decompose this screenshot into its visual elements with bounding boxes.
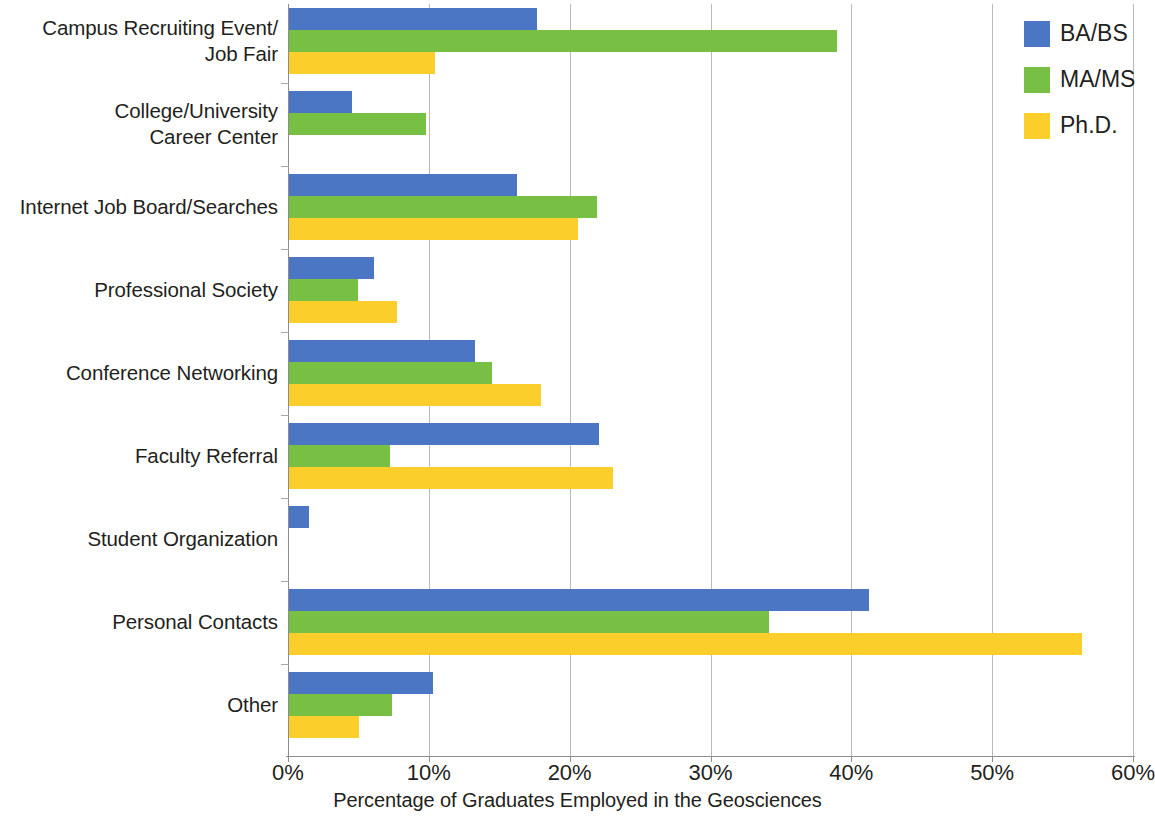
- x-tick-label: 40%: [791, 760, 911, 786]
- category-label-line: Job Fair: [6, 41, 278, 67]
- category-label: Other: [6, 692, 278, 718]
- bar-ph-d: [289, 384, 541, 406]
- category-separator-tick: [281, 664, 289, 665]
- bar-ph-d: [289, 218, 578, 240]
- bar-ba-bs: [289, 672, 433, 694]
- bar-ma-ms: [289, 694, 392, 716]
- category-label: Conference Networking: [6, 360, 278, 386]
- legend-swatch-icon: [1024, 21, 1050, 47]
- bar-ma-ms: [289, 196, 597, 218]
- bar-ma-ms: [289, 113, 426, 135]
- category-separator-tick: [281, 581, 289, 582]
- legend-swatch-icon: [1024, 67, 1050, 93]
- category-label-line: Faculty Referral: [6, 443, 278, 469]
- category-label: College/UniversityCareer Center: [6, 98, 278, 150]
- bar-ba-bs: [289, 257, 374, 279]
- bar-ba-bs: [289, 174, 517, 196]
- category-separator-tick: [281, 249, 289, 250]
- bar-ma-ms: [289, 279, 358, 301]
- category-label: Campus Recruiting Event/Job Fair: [6, 15, 278, 67]
- category-label-line: Personal Contacts: [6, 609, 278, 635]
- legend-label: Ph.D.: [1060, 110, 1118, 140]
- category-separator-tick: [281, 332, 289, 333]
- bar-ma-ms: [289, 30, 837, 52]
- bar-ba-bs: [289, 589, 869, 611]
- bar-ma-ms: [289, 445, 390, 467]
- category-separator-tick: [281, 166, 289, 167]
- category-label-line: Internet Job Board/Searches: [6, 194, 278, 220]
- category-label-line: College/University: [6, 98, 278, 124]
- x-tick-label: 50%: [932, 760, 1052, 786]
- category-label-line: Conference Networking: [6, 360, 278, 386]
- bar-ph-d: [289, 467, 613, 489]
- x-tick-label: 60%: [1073, 760, 1155, 786]
- category-label: Personal Contacts: [6, 609, 278, 635]
- bar-ph-d: [289, 52, 435, 74]
- category-label-line: Campus Recruiting Event/: [6, 15, 278, 41]
- category-label: Student Organization: [6, 526, 278, 552]
- bar-ph-d: [289, 633, 1082, 655]
- category-separator-tick: [281, 498, 289, 499]
- category-separator-tick: [281, 83, 289, 84]
- category-label-line: Student Organization: [6, 526, 278, 552]
- category-label: Internet Job Board/Searches: [6, 194, 278, 220]
- bar-ba-bs: [289, 423, 599, 445]
- x-tick-label: 30%: [651, 760, 771, 786]
- bar-ba-bs: [289, 91, 352, 113]
- bar-ba-bs: [289, 340, 475, 362]
- category-label: Faculty Referral: [6, 443, 278, 469]
- category-label-line: Professional Society: [6, 277, 278, 303]
- category-label-line: Career Center: [6, 124, 278, 150]
- category-separator-tick: [281, 415, 289, 416]
- x-tick-label: 20%: [510, 760, 630, 786]
- legend-label: MA/MS: [1060, 64, 1135, 94]
- bar-ma-ms: [289, 362, 492, 384]
- bar-ba-bs: [289, 8, 537, 30]
- x-tick-label: 10%: [369, 760, 489, 786]
- category-label: Professional Society: [6, 277, 278, 303]
- x-axis-title: Percentage of Graduates Employed in the …: [0, 789, 1155, 812]
- bar-ph-d: [289, 301, 397, 323]
- category-label-line: Other: [6, 692, 278, 718]
- legend-swatch-icon: [1024, 113, 1050, 139]
- bar-ba-bs: [289, 506, 309, 528]
- legend-label: BA/BS: [1060, 18, 1128, 48]
- bar-ph-d: [289, 716, 359, 738]
- bar-ma-ms: [289, 611, 769, 633]
- x-tick-label: 0%: [228, 760, 348, 786]
- bar-chart: Campus Recruiting Event/Job FairCollege/…: [0, 0, 1155, 817]
